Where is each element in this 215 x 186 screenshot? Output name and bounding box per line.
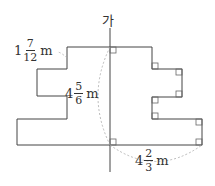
axis-label: 가	[102, 10, 114, 29]
numerator: 5	[74, 81, 83, 94]
whole: 4	[65, 87, 73, 100]
fraction: 7 12	[23, 38, 37, 63]
whole: 4	[135, 154, 143, 167]
denominator: 12	[23, 51, 37, 63]
right-angle-marks	[110, 47, 202, 145]
label-top-step: 1 7 12 m	[14, 38, 53, 63]
denominator: 3	[145, 161, 152, 173]
label-bottom-right: 4 2 3 m	[135, 148, 169, 173]
unit: m	[86, 87, 98, 100]
denominator: 6	[75, 94, 82, 106]
unit: m	[156, 154, 168, 167]
label-height: 4 5 6 m	[65, 81, 99, 106]
right-half-outline	[110, 47, 202, 145]
fraction: 5 6	[74, 81, 83, 106]
fraction: 2 3	[144, 148, 153, 173]
numerator: 2	[144, 148, 153, 161]
unit: m	[40, 44, 52, 57]
numerator: 7	[26, 38, 35, 51]
whole: 1	[14, 44, 22, 57]
